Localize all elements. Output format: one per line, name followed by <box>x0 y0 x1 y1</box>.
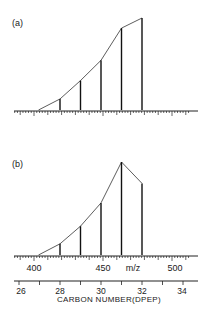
envelope-line <box>39 18 143 110</box>
panel-label-b: (b) <box>12 159 23 169</box>
panel-a-bars <box>39 18 143 110</box>
mz-unit-label: m/z <box>126 263 141 273</box>
mz-tick-400: 400 <box>26 263 41 273</box>
panel-b-mz-axis <box>14 256 198 261</box>
carbon-number-axis <box>14 281 198 285</box>
envelope-line <box>39 162 143 255</box>
carbon-tick-34: 34 <box>177 286 187 296</box>
carbon-axis-title: CARBON NUMBER(DPEP) <box>57 295 161 304</box>
spectra-figure: (a) (b) 400 450 m/z 500 26 28 30 32 34 C… <box>0 0 210 312</box>
panel-b-bars <box>39 162 143 255</box>
mz-tick-450: 450 <box>95 263 110 273</box>
mz-tick-500: 500 <box>167 263 182 273</box>
panel-a-mz-axis <box>14 111 198 116</box>
carbon-tick-26: 26 <box>16 286 26 296</box>
panel-label-a: (a) <box>12 18 23 28</box>
